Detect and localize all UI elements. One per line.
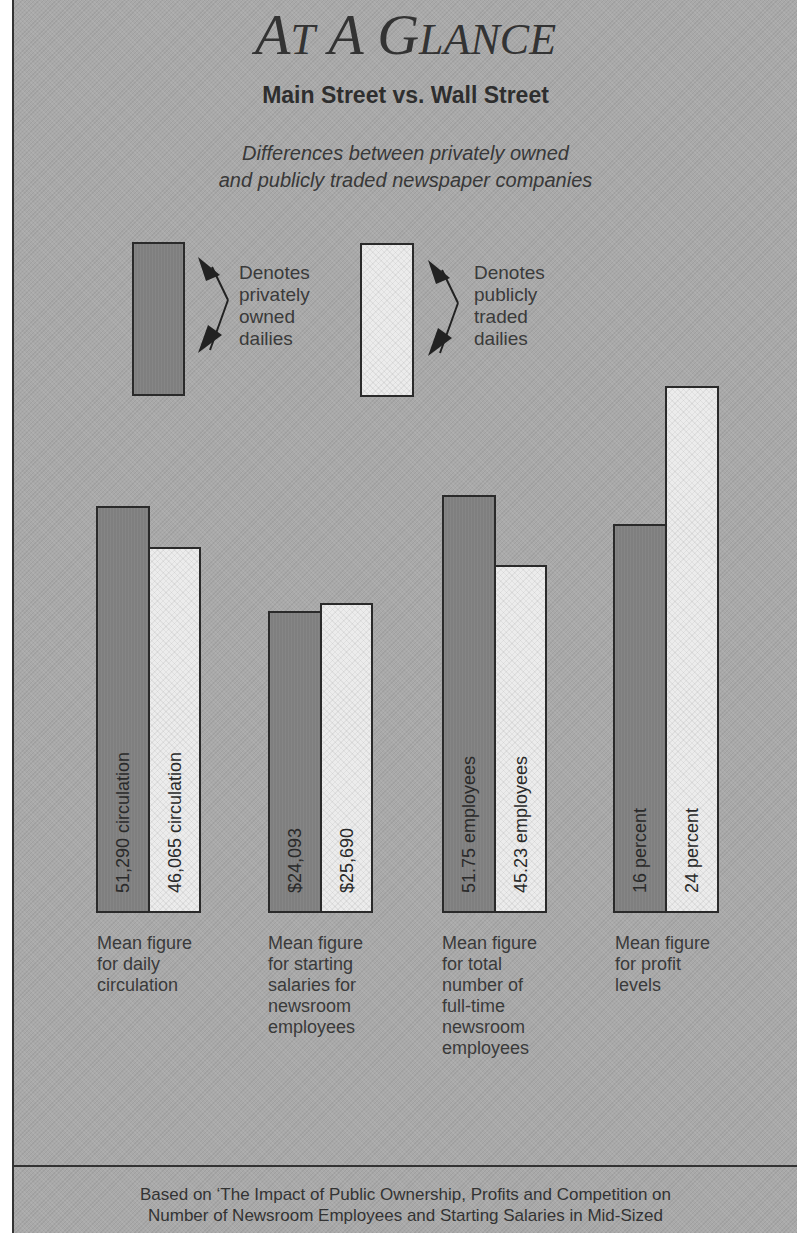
description-line: Differences between privately owned	[14, 140, 797, 167]
description-line: and publicly traded newspaper companies	[14, 167, 797, 194]
bar-private-profit: 16 percent	[613, 524, 667, 913]
legend-swatch-public	[360, 243, 414, 397]
bar-value-label: 16 percent	[630, 808, 651, 893]
category-label-circulation: Mean figure for daily circulation	[97, 933, 257, 996]
bar-private-salaries: $24,093	[268, 611, 322, 913]
legend-label-public: Denotes publicly traded dailies	[474, 262, 545, 350]
subtitle: Main Street vs. Wall Street	[14, 82, 797, 109]
bar-value-label: 51,290 circulation	[113, 752, 134, 893]
bar-value-label: 46,065 circulation	[164, 752, 185, 893]
bar-public-circulation: 46,065 circulation	[148, 547, 201, 913]
bar-private-circulation: 51,290 circulation	[96, 506, 150, 913]
double-arrow-icon	[194, 255, 244, 355]
category-label-employees: Mean figure for total number of full-tim…	[442, 933, 602, 1059]
bar-public-salaries: $25,690	[320, 603, 373, 913]
bar-public-employees: 45.23 employees	[494, 565, 547, 913]
legend-swatch-private	[132, 242, 185, 396]
bar-value-label: 51.75 employees	[459, 756, 480, 893]
source-line: Number of Newsroom Employees and Startin…	[14, 1205, 797, 1226]
source-note: Based on ‘The Impact of Public Ownership…	[14, 1184, 797, 1226]
bar-public-profit: 24 percent	[665, 386, 719, 913]
infographic-panel: AT A GLANCE Main Street vs. Wall Street …	[12, 0, 797, 1233]
category-label-salaries: Mean figure for starting salaries for ne…	[268, 933, 428, 1038]
double-arrow-icon	[424, 258, 474, 358]
bar-value-label: $24,093	[285, 828, 306, 893]
divider	[14, 1165, 797, 1167]
bar-value-label: $25,690	[336, 828, 357, 893]
page-title: AT A GLANCE	[14, 2, 797, 73]
bar-private-employees: 51.75 employees	[442, 495, 496, 913]
legend-label-private: Denotes privately owned dailies	[239, 262, 310, 350]
category-label-profit: Mean figure for profit levels	[615, 933, 775, 996]
description: Differences between privately owned and …	[14, 140, 797, 194]
bar-value-label: 24 percent	[682, 808, 703, 893]
bar-value-label: 45.23 employees	[510, 756, 531, 893]
source-line: Based on ‘The Impact of Public Ownership…	[14, 1184, 797, 1205]
